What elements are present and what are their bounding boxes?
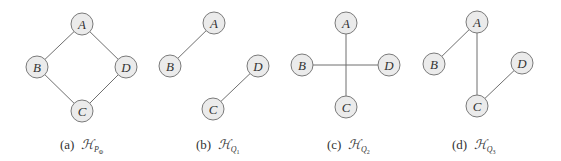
node-b: B <box>26 56 48 78</box>
node-c: C <box>335 96 357 118</box>
node-a: A <box>71 13 93 35</box>
edge-d-c <box>90 75 118 103</box>
node-c: C <box>71 100 93 122</box>
node-c: C <box>202 98 224 120</box>
node-label: D <box>516 56 527 71</box>
node-b: B <box>423 53 445 75</box>
caption-label: (a) <box>60 137 78 152</box>
node-d: D <box>511 52 533 74</box>
caption-label: (b) <box>196 137 214 152</box>
caption-subscript: Q3 <box>487 145 496 154</box>
node-a: A <box>466 11 488 33</box>
caption-symbol: ℋ <box>474 137 487 152</box>
caption-label: (d) <box>452 137 470 152</box>
node-b: B <box>159 55 181 77</box>
edge-a-b <box>45 32 74 60</box>
edge-d-c <box>485 71 514 99</box>
caption-symbol: ℋ <box>81 137 94 152</box>
node-label: A <box>472 15 481 30</box>
node-label: A <box>77 17 86 32</box>
caption-subsubscript: 2 <box>367 149 370 155</box>
node-label: B <box>166 59 174 74</box>
node-label: D <box>252 59 263 74</box>
caption-label: (c) <box>327 137 345 152</box>
edge-a-d <box>90 32 118 60</box>
graph-panel-c: ABDC <box>291 12 400 118</box>
node-b: B <box>291 54 313 76</box>
caption-a: (a) ℋPΦ <box>60 137 103 155</box>
caption-subsubscript: 3 <box>492 149 495 155</box>
node-d: D <box>247 55 269 77</box>
caption-subscript: PΦ <box>94 145 103 154</box>
node-label: A <box>341 16 350 31</box>
edge-b-c <box>45 75 74 104</box>
caption-c: (c) ℋQ2 <box>327 137 370 155</box>
node-label: C <box>78 104 87 119</box>
node-a: A <box>203 12 225 34</box>
node-label: A <box>209 16 218 31</box>
node-label: C <box>209 102 218 117</box>
node-a: A <box>335 12 357 34</box>
caption-subscript: Q2 <box>361 145 370 154</box>
node-label: B <box>33 60 41 75</box>
graph-panel-b: ABDC <box>159 12 269 120</box>
node-c: C <box>466 95 488 117</box>
node-label: D <box>120 60 131 75</box>
node-label: D <box>383 58 394 73</box>
caption-b: (b) ℋQ1 <box>196 137 239 155</box>
node-label: B <box>298 58 306 73</box>
node-label: C <box>473 99 482 114</box>
caption-d: (d) ℋQ3 <box>452 137 495 155</box>
edge-a-b <box>442 30 469 57</box>
graph-panel-a: ABDC <box>26 13 137 122</box>
node-d: D <box>115 56 137 78</box>
edge-d-c <box>221 74 250 102</box>
caption-subsubscript: 1 <box>236 149 239 155</box>
node-label: C <box>342 100 351 115</box>
caption-subscript: Q1 <box>231 145 240 154</box>
edge-a-b <box>178 31 206 59</box>
node-d: D <box>378 54 400 76</box>
node-label: B <box>430 57 438 72</box>
caption-subsubscript: Φ <box>99 149 103 155</box>
caption-symbol: ℋ <box>348 137 361 152</box>
caption-symbol: ℋ <box>218 137 231 152</box>
graph-panel-d: ABDC <box>423 11 533 117</box>
